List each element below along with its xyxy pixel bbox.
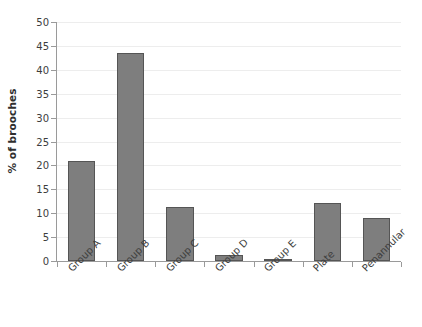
y-axis-tick-label: 0 [43, 256, 49, 267]
gridline [57, 142, 401, 143]
x-axis-tick-mark [57, 262, 58, 267]
y-axis-tick-mark [51, 165, 57, 166]
y-axis-tick-mark [51, 118, 57, 119]
y-axis-tick-mark [51, 237, 57, 238]
gridline [57, 213, 401, 214]
y-axis-tick-label: 15 [36, 184, 49, 195]
y-axis-tick-label: 50 [36, 17, 49, 28]
y-axis-tick-label: 35 [36, 88, 49, 99]
x-axis-tick-mark [303, 262, 304, 267]
y-axis-tick-label: 20 [36, 160, 49, 171]
y-axis-tick-labels: 05101520253035404550 [24, 0, 53, 262]
y-axis-title-label: % of brooches [6, 88, 18, 173]
y-axis-tick-label: 25 [36, 136, 49, 147]
x-axis-tick-labels: Group AGroup BGroup CGroup DGroup EPlate… [0, 266, 422, 327]
y-axis-tick-mark [51, 46, 57, 47]
x-axis-tick-mark [204, 262, 205, 267]
y-axis-tick-label: 5 [43, 232, 49, 243]
y-axis-tick-mark [51, 213, 57, 214]
x-axis-tick-mark [155, 262, 156, 267]
gridline [57, 189, 401, 190]
y-axis-tick-mark [51, 22, 57, 23]
y-axis-tick-label: 40 [36, 64, 49, 75]
bar [117, 53, 145, 261]
y-axis-tick-mark [51, 94, 57, 95]
gridline [57, 94, 401, 95]
gridline [57, 22, 401, 23]
y-axis-tick-mark [51, 70, 57, 71]
y-axis-tick-label: 30 [36, 112, 49, 123]
plot-area [57, 22, 401, 261]
gridline [57, 46, 401, 47]
gridline [57, 118, 401, 119]
gridline [57, 70, 401, 71]
y-axis-tick-mark [51, 189, 57, 190]
y-axis-title: % of brooches [0, 0, 24, 262]
y-axis-tick-label: 45 [36, 40, 49, 51]
gridline [57, 165, 401, 166]
x-axis-tick-mark [401, 262, 402, 267]
y-axis-tick-mark [51, 142, 57, 143]
x-axis-tick-mark [352, 262, 353, 267]
x-axis-tick-mark [254, 262, 255, 267]
bar-chart: % of brooches 05101520253035404550 Group… [0, 0, 422, 327]
y-axis-tick-label: 10 [36, 208, 49, 219]
x-axis-tick-mark [106, 262, 107, 267]
gridline [57, 237, 401, 238]
